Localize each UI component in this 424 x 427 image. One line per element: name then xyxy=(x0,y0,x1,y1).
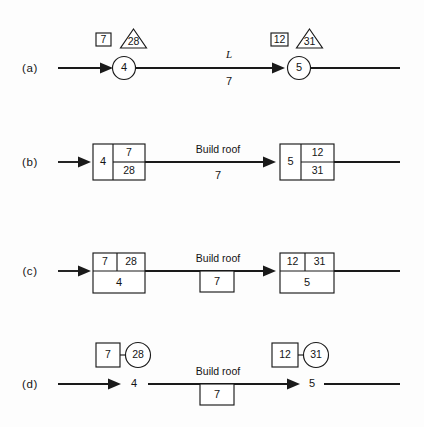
early-time-value-b-left: 7 xyxy=(126,146,132,158)
early-time-value-a-right: 12 xyxy=(274,33,286,45)
row-label-a: (a) xyxy=(22,62,38,74)
activity-duration-c: 7 xyxy=(214,275,220,287)
incoming-arrowhead-b xyxy=(78,157,91,168)
late-time-value-b-left: 28 xyxy=(123,164,135,176)
row-label-b: (b) xyxy=(22,156,38,168)
activity-name-c: Build roof xyxy=(196,252,240,264)
late-time-value-d-right: 31 xyxy=(310,348,322,360)
row-label-d: (d) xyxy=(22,378,38,390)
node-number-b-left: 4 xyxy=(100,155,106,167)
row-label-c: (c) xyxy=(22,265,37,277)
late-time-value-c-right: 31 xyxy=(314,255,326,267)
node-number-d-left: 4 xyxy=(131,377,137,389)
row-d: (d) 4 7 28 Build roof 7 5 12 xyxy=(22,343,400,406)
activity-arrowhead-a xyxy=(272,63,285,74)
late-time-value-d-left: 28 xyxy=(132,348,144,360)
row-c: (c) 7 28 4 Build roof 7 12 31 5 xyxy=(22,252,400,293)
activity-arrowhead-d xyxy=(287,379,300,390)
late-time-value-a-right: 31 xyxy=(304,35,316,47)
node-number-a-left: 4 xyxy=(121,61,127,73)
late-time-value-a-left: 28 xyxy=(128,35,140,47)
activity-name-b: Build roof xyxy=(196,143,240,155)
node-number-c-right: 5 xyxy=(304,276,310,288)
row-b: (b) 4 7 28 Build roof 7 5 12 31 xyxy=(22,143,400,181)
activity-arrowhead-c xyxy=(263,266,276,277)
early-time-value-d-left: 7 xyxy=(105,348,111,360)
activity-duration-a: 7 xyxy=(226,75,232,87)
activity-duration-b: 7 xyxy=(215,169,221,181)
row-a: (a) 4 7 28 L 7 5 12 xyxy=(22,29,400,87)
early-time-value-b-right: 12 xyxy=(312,146,324,158)
early-time-value-c-right: 12 xyxy=(287,255,299,267)
activity-arrowhead-b xyxy=(263,157,276,168)
network-notation-figure: (a) 4 7 28 L 7 5 12 xyxy=(0,0,424,427)
activity-duration-d: 7 xyxy=(214,388,220,400)
incoming-arrowhead-c xyxy=(78,266,91,277)
activity-name-d: Build roof xyxy=(196,365,240,377)
node-number-b-right: 5 xyxy=(287,155,293,167)
early-time-value-d-right: 12 xyxy=(279,348,291,360)
early-time-value-c-left: 7 xyxy=(102,255,108,267)
incoming-arrowhead-a xyxy=(100,63,113,74)
late-time-value-b-right: 31 xyxy=(312,164,324,176)
activity-name-a: L xyxy=(225,48,232,60)
early-time-value-a-left: 7 xyxy=(101,33,107,45)
late-time-value-c-left: 28 xyxy=(125,255,137,267)
node-number-c-left: 4 xyxy=(116,276,122,288)
incoming-arrowhead-d xyxy=(108,379,121,390)
node-number-a-right: 5 xyxy=(296,61,302,73)
node-number-d-right: 5 xyxy=(309,377,315,389)
